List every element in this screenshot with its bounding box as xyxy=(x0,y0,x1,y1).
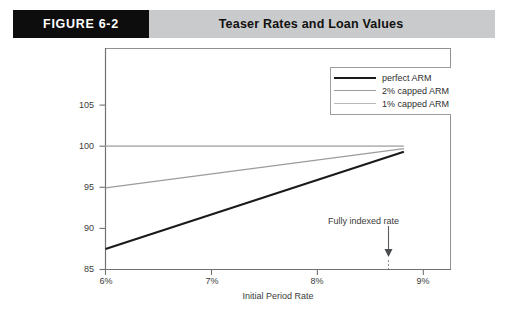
y-tick-label-105: 105 xyxy=(64,100,94,110)
x-axis-ticks xyxy=(106,270,424,276)
x-axis-title: Initial Period Rate xyxy=(105,291,451,301)
x-tick-label-8pct: 8% xyxy=(300,276,334,286)
legend-swatch-2pct-capped-arm xyxy=(334,90,376,91)
figure-number-label: FIGURE 6-2 xyxy=(43,17,119,31)
legend-item-1pct-capped-arm: 1% capped ARM xyxy=(331,97,451,110)
y-tick-label-85: 85 xyxy=(64,264,94,274)
legend-swatch-perfect-arm xyxy=(334,77,376,79)
x-tick-label-6pct: 6% xyxy=(89,276,123,286)
figure-header: FIGURE 6-2 Teaser Rates and Loan Values xyxy=(13,10,495,38)
legend-label-2pct-capped-arm: 2% capped ARM xyxy=(382,86,449,96)
y-tick-label-100: 100 xyxy=(64,141,94,151)
y-tick-label-95: 95 xyxy=(64,182,94,192)
legend-item-perfect-arm: perfect ARM xyxy=(331,71,451,84)
figure-title: Teaser Rates and Loan Values xyxy=(149,10,495,38)
y-tick-label-90: 90 xyxy=(64,223,94,233)
x-tick-label-7pct: 7% xyxy=(195,276,229,286)
legend-item-2pct-capped-arm: 2% capped ARM xyxy=(331,84,451,97)
x-tick-label-9pct: 9% xyxy=(406,276,440,286)
legend-label-perfect-arm: perfect ARM xyxy=(382,73,432,83)
legend-label-1pct-capped-arm: 1% capped ARM xyxy=(382,99,449,109)
legend-swatch-1pct-capped-arm xyxy=(334,103,376,104)
figure-number-badge: FIGURE 6-2 xyxy=(13,10,149,38)
chart-legend: perfect ARM 2% capped ARM 1% capped ARM xyxy=(330,67,451,115)
fully-indexed-rate-annotation: Fully indexed rate xyxy=(328,216,399,226)
